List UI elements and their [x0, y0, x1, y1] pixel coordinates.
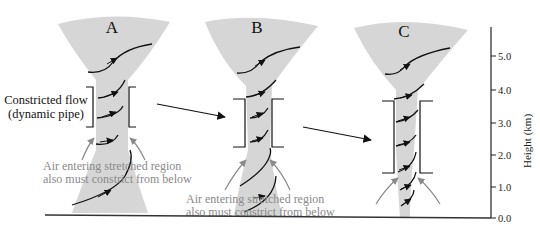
tick-4: 4.0 [498, 85, 511, 96]
funnel-c: C [354, 22, 468, 218]
air-note-a-line2: also must constrict from below [43, 172, 192, 186]
panel-label-c: C [398, 22, 409, 41]
tick-0: 0.0 [498, 213, 511, 224]
tick-3: 3.0 [498, 118, 511, 129]
dynamic-pipe-label: (dynamic pipe) [8, 107, 84, 121]
vortex-stretching-diagram: A Constricted flow (dynamic pipe) Air en… [0, 0, 540, 233]
height-axis: 0.0 1.0 2.0 3.0 4.0 5.0 Height (km) [491, 27, 534, 224]
tick-5: 5.0 [498, 51, 511, 62]
panel-label-b: B [251, 18, 262, 37]
air-note-a-line1: Air entering stretched region [43, 159, 181, 173]
panel-label-a: A [106, 18, 119, 37]
tick-2: 2.0 [498, 150, 511, 161]
arrow-b-to-c [303, 127, 371, 140]
air-note-b-line1: Air entering stretched region [186, 192, 324, 206]
arrow-a-to-b [157, 104, 225, 117]
axis-label: Height (km) [521, 114, 534, 168]
constricted-flow-label: Constricted flow [4, 93, 88, 107]
tick-1: 1.0 [498, 182, 511, 193]
